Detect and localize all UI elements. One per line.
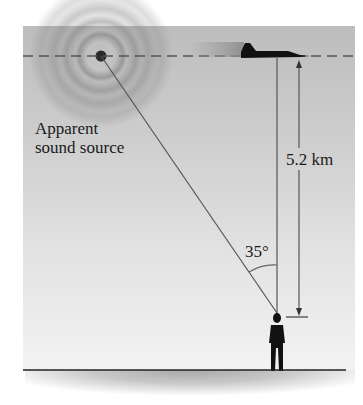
jet-aircraft-icon <box>188 42 310 58</box>
altitude-label: 5.2 km <box>286 150 333 169</box>
altitude-dimension <box>286 60 308 317</box>
diagram-canvas <box>0 0 363 405</box>
apparent-source-label-line1: Apparent <box>35 119 124 138</box>
apparent-source-label-line2: sound source <box>35 138 124 157</box>
concentric-sound-waves-icon <box>29 0 173 128</box>
sight-line <box>101 56 277 313</box>
angle-arc <box>249 265 277 272</box>
apparent-source-label: Apparent sound source <box>35 119 124 157</box>
person-silhouette-icon <box>269 313 285 371</box>
angle-label: 35° <box>245 242 269 261</box>
